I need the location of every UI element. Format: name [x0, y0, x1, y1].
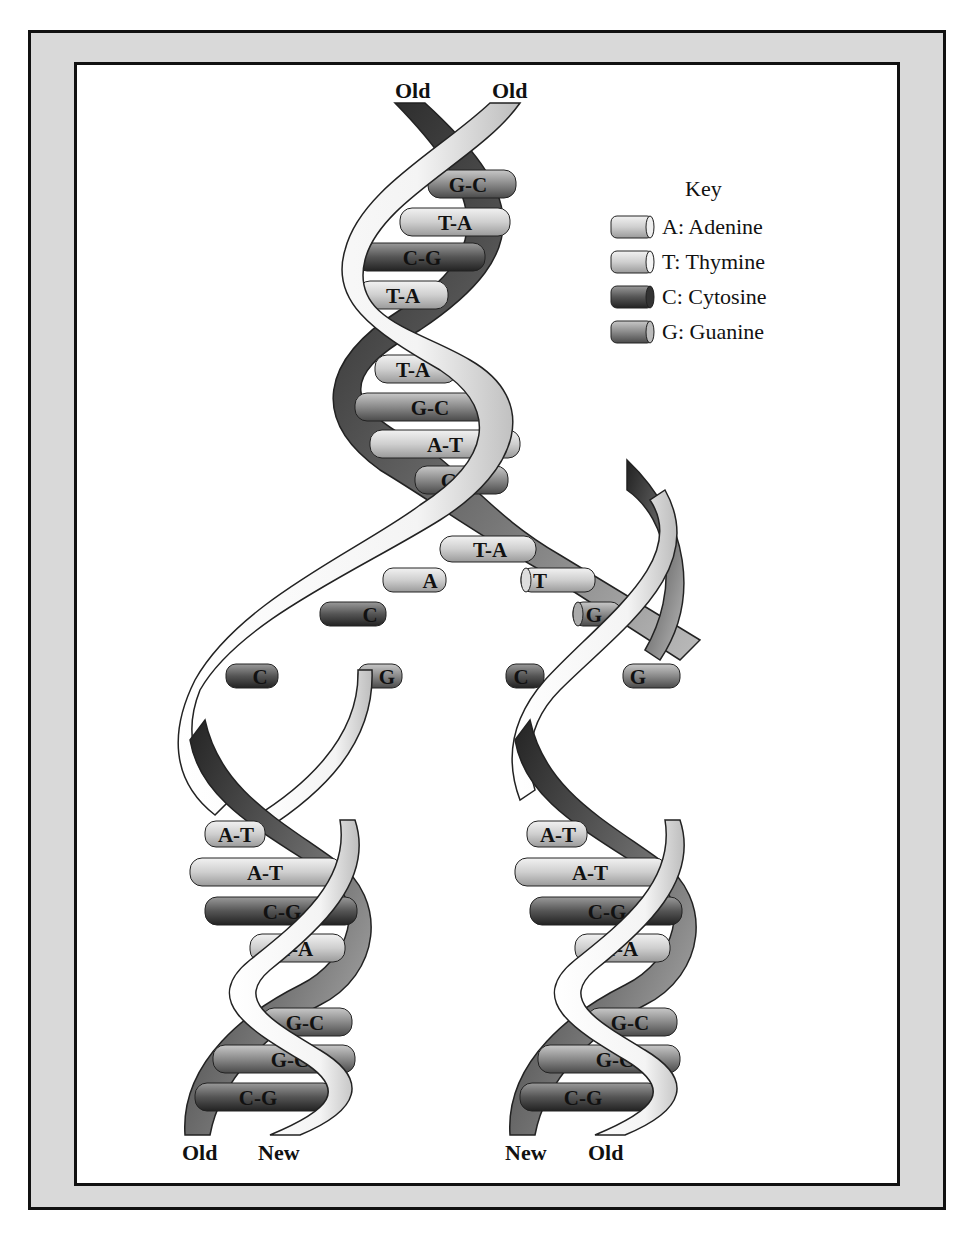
- key-label: G: Guanine: [662, 319, 764, 345]
- svg-text:C-G: C-G: [588, 900, 627, 924]
- svg-text:G-C: G-C: [449, 173, 488, 197]
- svg-text:A-T: A-T: [427, 433, 463, 457]
- adenine-swatch-icon: [610, 215, 656, 239]
- dna-replication-diagram: G-C T-A C-G T-A T-A G-C A-T G-C T-A A C …: [0, 0, 977, 1248]
- svg-text:A-T: A-T: [247, 861, 283, 885]
- svg-text:C-G: C-G: [239, 1086, 278, 1110]
- key-title: Key: [685, 176, 722, 202]
- base-c: C: [226, 664, 278, 689]
- base-pair: A-T: [515, 858, 667, 886]
- strand-label-bottom-left-old: Old: [182, 1140, 217, 1166]
- base-c: C: [506, 664, 544, 689]
- svg-text:T: T: [533, 569, 547, 593]
- key-item-guanine: G: Guanine: [610, 318, 764, 346]
- svg-text:A-T: A-T: [218, 823, 254, 847]
- base-pair: A-T: [190, 858, 342, 886]
- svg-text:C-G: C-G: [564, 1086, 603, 1110]
- thymine-swatch-icon: [610, 250, 656, 274]
- left-new-strand-start: [250, 670, 372, 830]
- strand-label-bottom-right-new: New: [505, 1140, 547, 1166]
- base-c: C: [320, 602, 386, 627]
- base-pair: A-T: [527, 821, 587, 847]
- svg-text:G-C: G-C: [286, 1011, 325, 1035]
- svg-text:G-C: G-C: [611, 1011, 650, 1035]
- base-pair: C-G: [355, 243, 485, 271]
- right-daughter-helix: A-T A-T C-G T-A G-C G-C C-G: [510, 720, 696, 1135]
- svg-text:C: C: [252, 665, 267, 689]
- svg-text:G: G: [630, 665, 646, 689]
- key-label: C: Cytosine: [662, 284, 767, 310]
- svg-text:G: G: [586, 603, 602, 627]
- base-g: G: [623, 664, 680, 689]
- svg-text:C: C: [513, 665, 528, 689]
- strand-label-bottom-right-old: Old: [588, 1140, 623, 1166]
- base-pair: T-A: [440, 536, 536, 562]
- base-t: T: [521, 568, 595, 593]
- svg-text:A-T: A-T: [572, 861, 608, 885]
- guanine-swatch-icon: [610, 320, 656, 344]
- key-item-thymine: T: Thymine: [610, 248, 765, 276]
- base-pair: C-G: [195, 1083, 335, 1111]
- svg-text:G-C: G-C: [411, 396, 450, 420]
- svg-text:G: G: [379, 665, 395, 689]
- key-label: A: Adenine: [662, 214, 763, 240]
- svg-text:A-T: A-T: [540, 823, 576, 847]
- base-pair: T-A: [400, 208, 510, 236]
- svg-text:C: C: [362, 603, 377, 627]
- strand-label-top-right: Old: [492, 78, 527, 104]
- base-pair: A-T: [205, 821, 265, 847]
- base-a: A: [383, 568, 446, 593]
- base-pair: C-G: [520, 1083, 660, 1111]
- key-item-adenine: A: Adenine: [610, 213, 763, 241]
- cytosine-swatch-icon: [610, 285, 656, 309]
- strand-label-bottom-left-new: New: [258, 1140, 300, 1166]
- svg-text:T-A: T-A: [386, 284, 421, 308]
- svg-text:A: A: [422, 569, 438, 593]
- svg-text:C-G: C-G: [403, 246, 442, 270]
- key-label: T: Thymine: [662, 249, 765, 275]
- svg-text:C-G: C-G: [263, 900, 302, 924]
- left-daughter-helix: A-T A-T C-G T-A G-C G-C C-G: [185, 720, 371, 1135]
- svg-text:T-A: T-A: [438, 211, 473, 235]
- svg-text:T-A: T-A: [473, 538, 508, 562]
- strand-label-top-left: Old: [395, 78, 430, 104]
- key-item-cytosine: C: Cytosine: [610, 283, 767, 311]
